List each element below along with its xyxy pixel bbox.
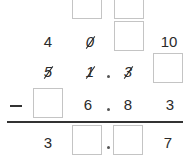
sum-line: [7, 121, 183, 123]
minuend-ones-crossed: 1: [80, 64, 100, 80]
minus-sign: [10, 105, 22, 107]
borrow-hundredths-carry: 10: [156, 34, 182, 50]
subtrahend-tens-box[interactable]: [33, 88, 63, 118]
subtrahend-ones-digit: 6: [78, 97, 98, 113]
difference-tenths-box[interactable]: [113, 125, 143, 155]
borrow-tens-digit: 4: [38, 34, 58, 50]
minuend-hundredths-box[interactable]: [153, 53, 183, 83]
minuend-decimal-point: [107, 75, 110, 78]
borrow-box-ones[interactable]: [72, 0, 102, 19]
subtrahend-decimal-point: [107, 108, 110, 111]
minuend-tens-crossed: 5: [38, 64, 58, 80]
borrow-box-tenths-top[interactable]: [114, 0, 144, 19]
difference-hundredths-digit: 7: [158, 135, 178, 151]
borrow-box-tenths[interactable]: [114, 21, 144, 51]
subtrahend-tenths-digit: 8: [118, 97, 138, 113]
borrow-ones-crossed-digit: 0: [80, 34, 100, 50]
minuend-tenths-crossed: 3: [118, 64, 138, 80]
subtrahend-hundredths-digit: 3: [160, 97, 180, 113]
difference-decimal-point: [107, 146, 110, 149]
difference-tens-digit: 3: [38, 135, 58, 151]
difference-ones-box[interactable]: [72, 125, 102, 155]
